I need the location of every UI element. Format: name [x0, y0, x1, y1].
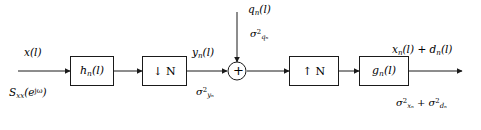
label-subband-signal: yn(l) — [192, 46, 214, 60]
label-noise-variance: σ2qₙ — [250, 28, 268, 41]
signal-flow-diagram: hn(l) ↓ N ↑ N gn(l) + x(l) Sxx(ejω) yn(l… — [0, 0, 481, 130]
label-output-signal: xn(l) + dn(l) — [392, 43, 452, 57]
label-input-signal: x(l) — [24, 46, 41, 58]
label-output-variance: σ2xₙ + σ2dₙ — [396, 97, 447, 110]
synthesis-filter-label: gn(l) — [372, 64, 396, 78]
block-synthesis-filter: gn(l) — [359, 56, 409, 86]
label-input-psd: Sxx(ejω) — [9, 86, 47, 100]
upsampler-label: ↑ N — [303, 65, 325, 78]
adder-plus-symbol: + — [233, 64, 244, 77]
label-subband-variance: σ2yₙ — [196, 86, 214, 99]
downsampler-label: ↓ N — [153, 65, 175, 78]
block-upsampler: ↑ N — [289, 56, 339, 86]
label-noise-signal: qn(l) — [248, 3, 271, 17]
block-downsampler: ↓ N — [142, 56, 187, 86]
analysis-filter-label: hn(l) — [80, 64, 104, 78]
block-analysis-filter: hn(l) — [70, 56, 114, 86]
